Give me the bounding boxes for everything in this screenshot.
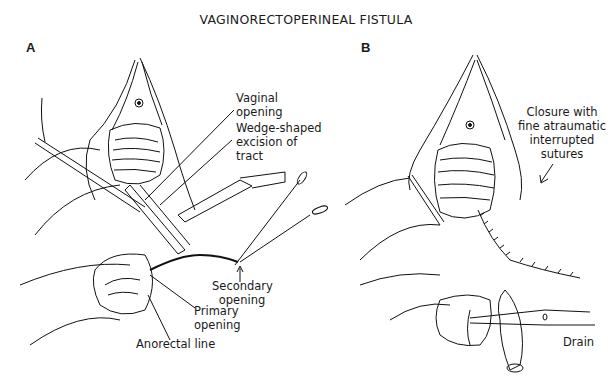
panel-a-illustration	[0, 0, 310, 392]
label-drain: Drain	[563, 335, 594, 349]
label-wedge-shaped-excision: Wedge-shaped excision of tract	[236, 121, 322, 163]
label-secondary-opening: Secondary opening	[212, 279, 272, 307]
label-closure-sutures: Closure with fine atraumatic interrupted…	[514, 105, 610, 161]
label-vaginal-opening: Vaginal opening	[236, 91, 282, 119]
panel-b-letter: B	[361, 40, 370, 55]
label-primary-opening: Primary opening	[194, 304, 240, 332]
label-anorectal-line: Anorectal line	[136, 337, 215, 351]
